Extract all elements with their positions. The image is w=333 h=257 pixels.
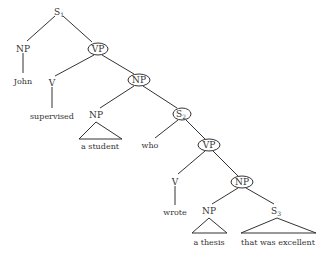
word-that-was-excellent: that was excellent <box>241 238 316 247</box>
node-s3: S3 <box>271 206 281 217</box>
node-v1: V <box>48 78 56 88</box>
node-v2: V <box>171 177 179 187</box>
triangle-s3 <box>241 218 316 233</box>
node-np-john: NP <box>16 44 30 54</box>
word-wrote: wrote <box>163 208 187 217</box>
triangle-np-thesis <box>192 218 227 233</box>
tree-edges <box>23 16 316 233</box>
word-who: who <box>142 141 159 150</box>
word-a-student: a student <box>81 142 120 151</box>
node-vp1: VP <box>91 44 105 54</box>
triangle-np-student <box>79 122 122 139</box>
node-vp2: VP <box>202 140 216 150</box>
word-a-thesis: a thesis <box>193 238 224 247</box>
word-john: John <box>13 77 32 86</box>
syntax-tree: S1 NP VP John V NP supervised NP S2 a st… <box>0 0 333 257</box>
node-np-thesis: NP <box>202 206 216 216</box>
node-s1: S1 <box>54 7 64 18</box>
node-np-student: NP <box>89 110 103 120</box>
node-np3: NP <box>235 177 249 187</box>
word-supervised: supervised <box>30 112 74 121</box>
node-np2: NP <box>132 75 146 85</box>
